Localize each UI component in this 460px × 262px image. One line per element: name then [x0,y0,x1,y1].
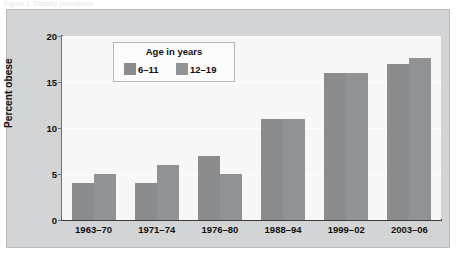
y-tick-label: 0 [27,215,57,226]
gridline [62,82,441,83]
gridline [62,36,441,37]
bar [283,119,305,220]
legend-entry-1: 12–19 [176,63,216,75]
gridline [62,128,441,129]
y-tick-label: 15 [27,77,57,88]
x-tick-label: 1971–74 [125,224,188,235]
bar [346,73,368,220]
x-tick-label: 1963–70 [62,224,125,235]
y-tick-label: 10 [27,123,57,134]
chart-panel: Percent obese 05101520 1963–701971–74197… [6,9,450,248]
bar [220,174,242,220]
figure-caption: Figure 1. Obesity prevalence [4,0,204,8]
bar [72,183,94,220]
y-tick-label: 20 [27,31,57,42]
legend-swatch-icon-1 [176,63,188,75]
gridline [62,174,441,175]
bar [157,165,179,220]
x-tick-label: 2003–06 [378,224,441,235]
bar [409,58,431,220]
bar [324,73,346,220]
legend-label-0: 6–11 [138,64,159,75]
bar [387,64,409,220]
chart-legend: Age in years 6–11 12–19 [113,42,235,82]
legend-entry-0: 6–11 [124,63,159,75]
bar [198,156,220,220]
bar [94,174,116,220]
y-tick-mark [58,220,62,221]
y-tick-label: 5 [27,169,57,180]
x-tick-label: 1976–80 [188,224,251,235]
bar [135,183,157,220]
x-tick-label: 1988–94 [252,224,315,235]
x-tick-label: 1999–02 [315,224,378,235]
y-axis-title: Percent obese [3,58,14,128]
legend-label-1: 12–19 [190,64,216,75]
legend-title: Age in years [114,46,234,57]
bar [261,119,283,220]
legend-swatch-icon-0 [124,63,136,75]
figure-container: Figure 1. Obesity prevalence Percent obe… [0,0,460,262]
